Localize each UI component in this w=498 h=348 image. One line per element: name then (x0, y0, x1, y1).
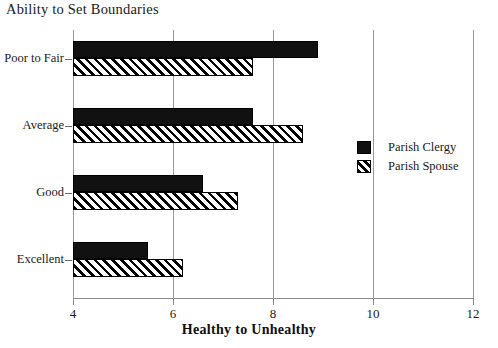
x-axis-tick-label: 12 (453, 306, 493, 322)
bar-parish-spouse (73, 125, 303, 143)
y-axis-category-label: Good (0, 185, 64, 199)
x-axis-tick (273, 298, 274, 305)
chart-figure: Ability to Set Boundaries Healthy to Unh… (0, 0, 498, 348)
x-axis-tick-label: 4 (53, 306, 93, 322)
x-axis-tick (173, 298, 174, 305)
category-leader-tick (65, 59, 72, 60)
x-axis-tick-label: 10 (353, 306, 393, 322)
category-label-text: Excellent (17, 252, 64, 267)
legend-label-parish-spouse: Parish Spouse (388, 159, 459, 174)
category-label-text: Poor to Fair (4, 51, 64, 66)
category-leader-tick (65, 260, 72, 261)
category-label-text: Average (23, 118, 64, 133)
legend-swatch-hatched-icon (357, 160, 371, 173)
x-axis-tick-label: 6 (153, 306, 193, 322)
bar-parish-clergy (73, 108, 253, 125)
category-leader-tick (65, 126, 72, 127)
bar-parish-clergy (73, 41, 318, 58)
category-leader-tick (65, 193, 72, 194)
legend-label-parish-clergy: Parish Clergy (388, 140, 456, 155)
y-axis-category-label: Average (0, 118, 64, 132)
y-axis-category-label: Poor to Fair (0, 51, 64, 65)
category-label-text: Good (36, 185, 64, 200)
x-axis-tick (73, 298, 74, 305)
bar-parish-spouse (73, 58, 253, 76)
gridline (273, 30, 274, 298)
chart-legend: Parish Clergy Parish Spouse (357, 139, 495, 181)
bar-parish-clergy (73, 242, 148, 259)
bar-parish-clergy (73, 175, 203, 192)
legend-swatch-solid-black-icon (357, 141, 371, 154)
x-axis-tick-label: 8 (253, 306, 293, 322)
legend-item-parish-spouse: Parish Spouse (357, 158, 459, 175)
x-axis-tick (473, 298, 474, 305)
bar-parish-spouse (73, 192, 238, 210)
legend-item-parish-clergy: Parish Clergy (357, 139, 456, 156)
y-axis-category-label: Excellent (0, 252, 64, 266)
x-axis-label: Healthy to Unhealthy (0, 322, 498, 338)
bar-parish-spouse (73, 259, 183, 277)
chart-title: Ability to Set Boundaries (6, 1, 159, 18)
x-axis-tick (373, 298, 374, 305)
